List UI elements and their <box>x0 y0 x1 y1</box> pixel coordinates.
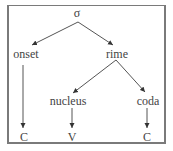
node-onset-c: C <box>20 131 28 143</box>
edge-sigma-rime <box>78 22 113 45</box>
tree-edges <box>0 0 173 151</box>
node-coda-c: C <box>143 131 151 143</box>
node-nucleus: nucleus <box>50 95 87 107</box>
edge-rime-nucleus <box>73 60 116 93</box>
node-rime: rime <box>106 48 128 60</box>
edge-rime-coda <box>116 60 145 92</box>
node-coda: coda <box>137 95 160 107</box>
node-nucleus-v: V <box>68 131 77 143</box>
node-sigma: σ <box>74 7 80 19</box>
node-onset: onset <box>13 48 38 60</box>
edge-sigma-onset <box>32 22 78 45</box>
